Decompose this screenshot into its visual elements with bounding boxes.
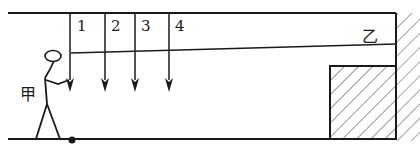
block-hatching — [330, 66, 396, 139]
arm — [46, 80, 69, 84]
person-jia-label: 甲 — [20, 85, 36, 104]
arrow-down-icon — [131, 78, 139, 92]
torso — [45, 78, 47, 104]
floor-point-marker — [69, 137, 76, 144]
arrow-down-icon — [165, 78, 173, 92]
arrow-3-label: 3 — [141, 17, 151, 35]
hatched-block — [330, 66, 396, 139]
neck — [45, 61, 54, 78]
head — [45, 51, 61, 62]
left-leg — [36, 104, 47, 139]
person-jia-figure — [36, 51, 69, 140]
arrow-2-label: 2 — [111, 17, 121, 35]
diagram-canvas: 1 2 3 4 甲 乙 — [0, 0, 420, 166]
right-wall — [396, 13, 420, 141]
arrow-4-label: 4 — [175, 17, 185, 35]
arrow-down-icon — [101, 78, 109, 92]
sight-line — [71, 44, 396, 53]
right-leg — [47, 104, 60, 139]
arrow-1-label: 1 — [77, 17, 87, 35]
arrow-4 — [165, 13, 173, 92]
wall-hatching — [397, 13, 420, 141]
person-yi-label: 乙 — [362, 27, 378, 46]
arrow-3 — [131, 13, 139, 92]
